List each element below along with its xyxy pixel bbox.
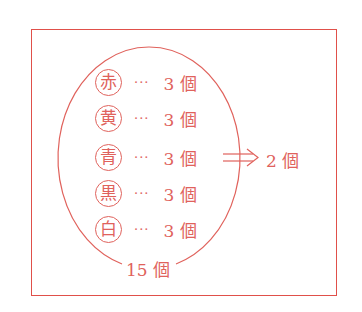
color-circle: 赤 — [95, 69, 122, 96]
item-count: 3 個 — [163, 145, 196, 170]
list-item: 赤 ··· 3 個 — [95, 67, 197, 97]
ellipsis: ··· — [134, 150, 149, 165]
color-circle: 白 — [95, 216, 122, 243]
item-count: 3 個 — [163, 181, 196, 206]
ellipsis: ··· — [134, 111, 149, 126]
list-item: 青 ··· 3 個 — [95, 142, 197, 172]
list-item: 黒 ··· 3 個 — [95, 178, 197, 208]
ellipsis: ··· — [134, 186, 149, 201]
color-circle: 黄 — [95, 105, 122, 132]
list-item: 白 ··· 3 個 — [95, 214, 197, 244]
item-count: 3 個 — [163, 70, 196, 95]
color-circle: 黒 — [95, 180, 122, 207]
ellipsis: ··· — [134, 222, 149, 237]
ellipsis: ··· — [134, 75, 149, 90]
result-label: 2 個 — [266, 147, 299, 172]
item-count: 3 個 — [163, 217, 196, 242]
item-count: 3 個 — [163, 106, 196, 131]
total-label: 15 個 — [126, 256, 170, 281]
list-item: 黄 ··· 3 個 — [95, 103, 197, 133]
color-circle: 青 — [95, 144, 122, 171]
